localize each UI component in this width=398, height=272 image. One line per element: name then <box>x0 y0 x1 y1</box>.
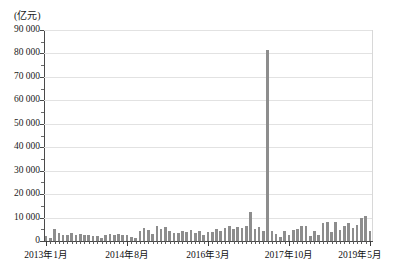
bar <box>164 227 167 241</box>
x-axis-minor-tick <box>153 241 154 244</box>
plot-right-border <box>372 30 373 242</box>
bar <box>185 232 188 241</box>
x-axis-major-tick <box>208 241 209 246</box>
x-axis-tick-label: 2013年1月 <box>24 247 68 261</box>
bar <box>194 233 197 241</box>
chart-container: (亿元) 90 00080 00070 00060 00050 00040 00… <box>0 0 398 272</box>
x-axis-minor-tick <box>280 241 281 244</box>
x-axis-minor-tick <box>161 241 162 244</box>
x-axis-minor-tick <box>131 241 132 244</box>
y-axis-tick-mark <box>40 147 44 148</box>
bar <box>356 225 359 241</box>
x-axis-minor-tick <box>246 241 247 244</box>
bar <box>258 227 261 241</box>
y-axis-minor-tick <box>41 65 44 66</box>
y-axis-tick-mark <box>40 124 44 125</box>
y-axis-tick-label: 70 000 <box>0 72 40 81</box>
x-axis-minor-tick <box>349 241 350 244</box>
bar <box>177 233 180 241</box>
bar <box>262 231 265 241</box>
bar <box>292 230 295 241</box>
x-axis-minor-tick <box>136 241 137 244</box>
bar <box>254 229 257 241</box>
x-axis-tick-label: 2014年8月 <box>105 247 149 261</box>
x-axis-minor-tick <box>89 241 90 244</box>
x-axis-minor-tick <box>157 241 158 244</box>
x-axis-minor-tick <box>361 241 362 244</box>
bar <box>322 223 325 241</box>
y-axis-tick-mark <box>40 218 44 219</box>
x-axis-minor-tick <box>217 241 218 244</box>
x-axis-minor-tick <box>80 241 81 244</box>
x-axis-minor-tick <box>238 241 239 244</box>
x-axis-minor-tick <box>102 241 103 244</box>
x-axis-minor-tick <box>297 241 298 244</box>
x-axis-minor-tick <box>110 241 111 244</box>
x-axis-minor-tick <box>293 241 294 244</box>
bar <box>79 234 82 241</box>
x-axis-minor-tick <box>310 241 311 244</box>
x-axis-tick-label: 2016年3月 <box>186 247 230 261</box>
x-axis-minor-tick <box>123 241 124 244</box>
x-axis-minor-tick <box>114 241 115 244</box>
bar <box>330 232 333 241</box>
bar <box>296 229 299 241</box>
x-axis-minor-tick <box>182 241 183 244</box>
bar <box>181 231 184 241</box>
x-axis-minor-tick <box>276 241 277 244</box>
x-axis-minor-tick <box>259 241 260 244</box>
x-axis-minor-tick <box>174 241 175 244</box>
bar <box>117 234 120 241</box>
y-axis-tick-label: 0 <box>0 236 40 245</box>
x-axis-minor-tick <box>263 241 264 244</box>
x-axis-minor-tick <box>234 241 235 244</box>
bar <box>300 226 303 241</box>
y-axis-minor-tick <box>41 159 44 160</box>
x-axis-minor-tick <box>191 241 192 244</box>
y-axis-minor-tick <box>41 89 44 90</box>
bar <box>173 233 176 241</box>
x-axis-minor-tick <box>170 241 171 244</box>
bar <box>241 228 244 241</box>
bar <box>334 222 337 241</box>
bar <box>215 229 218 241</box>
bar <box>364 216 367 241</box>
x-axis-minor-tick <box>63 241 64 244</box>
bar <box>198 231 201 241</box>
y-axis-minor-tick <box>41 206 44 207</box>
x-axis-minor-tick <box>366 241 367 244</box>
bar <box>271 231 274 241</box>
x-axis-minor-tick <box>187 241 188 244</box>
bar <box>168 231 171 241</box>
bar <box>58 233 61 241</box>
y-axis-minor-tick <box>41 112 44 113</box>
y-axis-tick-label: 30 000 <box>0 166 40 175</box>
bar <box>245 226 248 241</box>
x-axis-minor-tick <box>199 241 200 244</box>
x-axis-minor-tick <box>255 241 256 244</box>
bar <box>190 230 193 241</box>
bar <box>151 234 154 241</box>
bar <box>266 50 269 241</box>
bar <box>343 226 346 241</box>
x-axis-minor-tick <box>272 241 273 244</box>
bar <box>369 231 372 241</box>
bar <box>70 233 73 241</box>
y-axis-tick-label: 90 000 <box>0 25 40 34</box>
bar <box>236 227 239 241</box>
x-axis-minor-tick <box>314 241 315 244</box>
y-axis-tick-mark <box>40 77 44 78</box>
y-axis-tick-mark <box>40 241 44 242</box>
x-axis-minor-tick <box>165 241 166 244</box>
bar <box>228 226 231 241</box>
bar <box>143 228 146 241</box>
x-axis-minor-tick <box>268 241 269 244</box>
x-axis-minor-tick <box>221 241 222 244</box>
bar <box>147 230 150 241</box>
x-axis-minor-tick <box>212 241 213 244</box>
bar <box>339 230 342 241</box>
x-axis-minor-tick <box>357 241 358 244</box>
bar <box>53 229 56 241</box>
x-axis-major-tick <box>289 241 290 246</box>
bar <box>249 212 252 241</box>
